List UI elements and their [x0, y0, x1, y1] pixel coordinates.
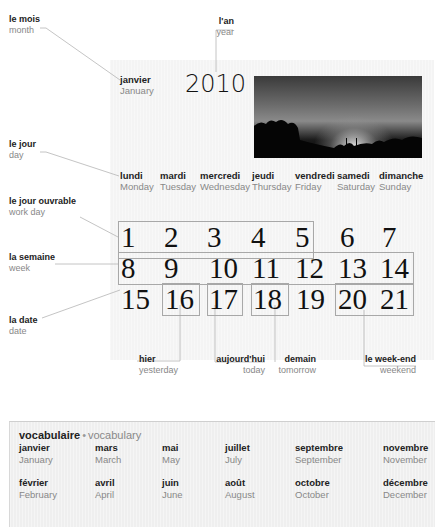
calendar-year: 2010 [185, 70, 246, 98]
weekday-wednesday: mercredi Wednesday [200, 170, 250, 192]
day-number: 15 [121, 284, 150, 314]
day-number: 10 [209, 253, 238, 283]
vocab-en: May [162, 454, 180, 466]
vocab-item-december: décembre December [383, 477, 428, 501]
annotation-yesterday-en: yesterday [139, 365, 178, 376]
vocab-en: November [383, 454, 428, 466]
weekday-en: Saturday [337, 181, 375, 192]
calendar-month-en: January [120, 85, 154, 96]
annotation-today-en: today [210, 365, 265, 376]
annotation-month-fr: le mois [9, 14, 40, 25]
annotation-month: le mois month [9, 14, 40, 36]
annotation-tomorrow-fr: demain [278, 354, 316, 365]
day-number: 16 [165, 284, 194, 314]
vocab-fr: janvier [19, 442, 53, 454]
bullet-separator: • [82, 429, 86, 441]
sunset-palm-photo [254, 76, 422, 158]
vocab-fr: juin [162, 477, 183, 489]
vocabulary-title: vocabulaire•vocabulary [19, 429, 141, 441]
annotation-work-day-en: work day [9, 207, 76, 218]
weekday-fr: mercredi [200, 170, 250, 181]
annotation-week-fr: la semaine [9, 252, 55, 263]
annotation-day-en: day [9, 150, 36, 161]
weekday-fr: lundi [120, 170, 154, 181]
vocabulary-box: vocabulaire•vocabulary janvier January f… [9, 421, 435, 527]
annotation-date: la date date [9, 315, 38, 337]
weekday-en: Tuesday [160, 181, 196, 192]
palm-silhouette-icon [254, 118, 422, 158]
annotation-month-en: month [9, 25, 40, 36]
weekday-en: Sunday [379, 181, 423, 192]
vocab-fr: août [225, 477, 255, 489]
vocab-en: February [19, 489, 57, 501]
vocab-item-august: août August [225, 477, 255, 501]
weekday-en: Monday [120, 181, 154, 192]
annotation-day-fr: le jour [9, 139, 36, 150]
vocab-fr: novembre [383, 442, 428, 454]
vocab-item-june: juin June [162, 477, 183, 501]
weekday-fr: samedi [337, 170, 375, 181]
day-number: 17 [209, 284, 238, 314]
vocabulary-title-fr: vocabulaire [19, 429, 80, 441]
annotation-date-fr: la date [9, 315, 38, 326]
vocab-item-april: avril April [95, 477, 115, 501]
vocab-fr: septembre [295, 442, 343, 454]
vocab-en: June [162, 489, 183, 501]
annotation-week-en: week [9, 263, 55, 274]
day-number: 2 [164, 222, 179, 252]
annotation-weekend: le week-end weekend [360, 354, 416, 376]
vocab-en: July [225, 454, 250, 466]
annotation-week: la semaine week [9, 252, 55, 274]
day-number: 8 [121, 253, 136, 283]
annotation-work-day: le jour ouvrable work day [9, 196, 76, 218]
day-number: 7 [382, 222, 397, 252]
day-number: 20 [338, 284, 367, 314]
vocab-fr: avril [95, 477, 115, 489]
day-number: 19 [296, 284, 325, 314]
vocab-en: April [95, 489, 115, 501]
vocab-item-september: septembre September [295, 442, 343, 466]
day-number: 3 [207, 222, 222, 252]
day-number: 9 [164, 253, 179, 283]
weekday-en: Wednesday [200, 181, 250, 192]
vocab-item-february: février February [19, 477, 57, 501]
weekday-fr: mardi [160, 170, 196, 181]
weekday-saturday: samedi Saturday [337, 170, 375, 192]
day-number: 5 [295, 222, 310, 252]
vocabulary-title-en: vocabulary [88, 429, 141, 441]
calendar-month: janvier January [120, 74, 154, 96]
weekday-tuesday: mardi Tuesday [160, 170, 196, 192]
vocab-en: September [295, 454, 343, 466]
weekday-fr: jeudi [252, 170, 292, 181]
day-number: 11 [252, 253, 280, 283]
annotation-today: aujourd'hui today [210, 354, 265, 376]
day-number: 14 [380, 253, 409, 283]
day-number: 21 [380, 284, 409, 314]
vocab-en: January [19, 454, 53, 466]
vocab-en: December [383, 489, 428, 501]
vocab-en: October [295, 489, 330, 501]
annotation-work-day-fr: le jour ouvrable [9, 196, 76, 207]
weekday-en: Friday [295, 181, 335, 192]
day-number: 4 [251, 222, 266, 252]
vocab-item-march: mars March [95, 442, 121, 466]
annotation-tomorrow: demain tomorrow [278, 354, 316, 376]
vocab-fr: mai [162, 442, 180, 454]
annotation-today-fr: aujourd'hui [210, 354, 265, 365]
annotation-year-en: year [200, 27, 234, 38]
vocab-fr: octobre [295, 477, 330, 489]
day-number: 6 [340, 222, 355, 252]
weekday-friday: vendredi Friday [295, 170, 335, 192]
vocab-fr: mars [95, 442, 121, 454]
annotation-weekend-en: weekend [360, 365, 416, 376]
annotation-tomorrow-en: tomorrow [278, 365, 316, 376]
vocab-item-october: octobre October [295, 477, 330, 501]
vocab-item-november: novembre November [383, 442, 428, 466]
day-number: 1 [121, 222, 136, 252]
annotation-yesterday-fr: hier [139, 354, 178, 365]
annotation-year-fr: l'an [200, 16, 234, 27]
annotation-year: l'an year [200, 16, 234, 38]
annotation-yesterday: hier yesterday [139, 354, 178, 376]
vocab-item-january: janvier January [19, 442, 53, 466]
vocab-fr: décembre [383, 477, 428, 489]
